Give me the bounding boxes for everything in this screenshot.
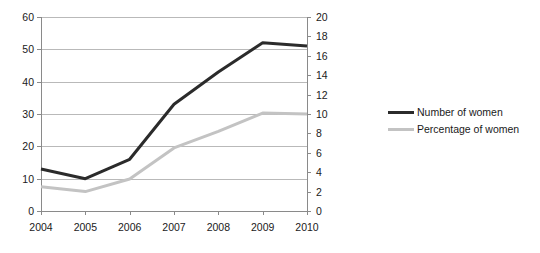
x-axis-tick-label: 2010 [295,222,318,233]
series-line-number-of-women [41,43,307,179]
x-axis-tick-label: 2006 [118,222,141,233]
x-axis-tick-label: 2009 [251,222,274,233]
y-axis-right-tick-label: 6 [316,148,322,159]
y-axis-left-tick-label: 30 [6,109,34,120]
legend-swatch-icon-number-of-women [388,111,414,114]
y-axis-left-tick-label: 50 [6,44,34,55]
series-lines-group [41,43,307,192]
legend-swatch-icon-percentage-of-women [388,128,414,131]
legend-label-percentage-of-women: Percentage of women [417,124,519,135]
x-axis-tick-label: 2007 [162,222,185,233]
y-axis-left-tick-label: 20 [6,141,34,152]
y-axis-right-tick-label: 20 [316,12,328,23]
y-axis-right-tick-label: 12 [316,89,328,100]
x-axis-tick-label: 2008 [207,222,230,233]
y-axis-left-tick-label: 10 [6,173,34,184]
chart-container: 0102030405060 02468101214161820 20042005… [0,0,540,253]
y-axis-right-tick-label: 8 [316,128,322,139]
legend-item-number-of-women: Number of women [388,104,519,121]
legend-label-number-of-women: Number of women [417,107,503,118]
y-axis-right-tick-label: 18 [316,31,328,42]
tick-marks-group [37,18,311,216]
y-axis-right-tick-label: 16 [316,51,328,62]
y-axis-right-tick-label: 10 [316,109,328,120]
y-axis-left-tick-label: 0 [6,206,34,217]
x-axis-tick-label: 2005 [74,222,97,233]
y-axis-right-tick-label: 4 [316,167,322,178]
x-axis-tick-label: 2004 [29,222,52,233]
y-axis-right-tick-label: 14 [316,70,328,81]
y-axis-left-tick-label: 40 [6,76,34,87]
chart-legend: Number of women Percentage of women [388,104,519,138]
y-axis-right-tick-label: 2 [316,186,322,197]
legend-item-percentage-of-women: Percentage of women [388,121,519,138]
y-axis-right-tick-label: 0 [316,206,322,217]
y-axis-left-tick-label: 60 [6,12,34,23]
